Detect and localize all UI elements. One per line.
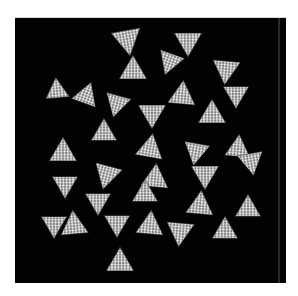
nanoflake-triangle (186, 190, 214, 215)
nanoflake-triangle (72, 79, 102, 107)
nanoflake-triangle (107, 248, 133, 271)
nanoflake-triangle (136, 132, 166, 159)
nanoflake-triangle (236, 195, 260, 216)
nanoflake-triangle (92, 119, 116, 140)
nanoflake-triangle (105, 216, 129, 237)
nanoflake-triangle (45, 77, 69, 98)
nanoflake-triangle (166, 222, 194, 247)
nanoflake-triangle (139, 105, 165, 128)
nanoflake-triangle (238, 152, 265, 177)
nanoflake-triangle (199, 100, 225, 123)
nanoflake-triangle (212, 60, 240, 85)
micrograph-panel (15, 17, 286, 283)
nanoflake-triangle (225, 134, 251, 157)
nanoflake-triangle (60, 210, 88, 235)
nanoflake-triangle (224, 87, 248, 108)
panel-edge-artifact (278, 18, 280, 283)
nanoflake-triangle (213, 217, 237, 238)
nanoflake-triangle (175, 33, 201, 56)
nanoflake-triangle (112, 29, 144, 58)
nanoflake-triangle (102, 93, 131, 119)
nanoflake-triangle (86, 194, 110, 215)
nanoflake-triangle (50, 138, 76, 161)
nanoflake-triangle (91, 163, 122, 191)
nanoflake-triangle (120, 56, 146, 79)
nanoflake-triangle (182, 142, 209, 167)
nanoflake-triangle (154, 50, 184, 78)
nanoflake-triangle (53, 177, 77, 198)
nanoflake-triangle (192, 166, 218, 189)
figure-caption (0, 0, 298, 5)
triangular-particles (15, 18, 286, 283)
nanoflake-triangle (136, 210, 164, 235)
nanoflake-triangle (168, 80, 196, 105)
